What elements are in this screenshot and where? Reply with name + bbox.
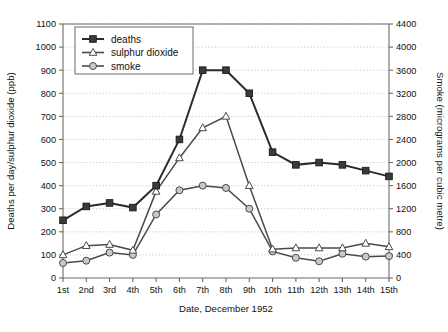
y-axis-tick-label: 1100: [36, 19, 56, 29]
data-point: [245, 182, 253, 189]
data-point: [130, 204, 137, 211]
data-point: [292, 254, 299, 261]
line-chart: 0100200300400500600700800900100011000400…: [0, 0, 448, 332]
x-axis-tick-label: 15th: [380, 285, 398, 295]
y-axis-tick-label: 700: [41, 112, 56, 122]
x-axis-tick-label: 14th: [357, 285, 375, 295]
data-point: [362, 253, 369, 260]
y2-axis-tick-label: 0: [396, 273, 401, 283]
y-axis-tick-label: 900: [41, 66, 56, 76]
data-point: [339, 250, 346, 257]
data-point: [269, 149, 276, 156]
series-path: [63, 70, 389, 220]
x-axis-tick-label: 7th: [196, 285, 209, 295]
legend-label: sulphur dioxide: [111, 47, 179, 58]
data-point: [106, 249, 113, 256]
y-axis-tick-label: 0: [51, 273, 56, 283]
y2-axis-tick-label: 3200: [396, 89, 416, 99]
y2-axis-tick-label: 4400: [396, 19, 416, 29]
y2-axis-tick-label: 2800: [396, 112, 416, 122]
data-point: [60, 259, 67, 266]
y2-axis-tick-label: 400: [396, 250, 411, 260]
data-point: [362, 167, 369, 174]
data-point: [223, 67, 230, 74]
data-point: [83, 257, 90, 264]
data-point: [362, 239, 370, 246]
data-point: [106, 200, 113, 207]
data-point: [316, 159, 323, 166]
data-point: [153, 182, 160, 189]
y2-axis-tick-label: 3600: [396, 66, 416, 76]
x-axis-tick-label: 5th: [150, 285, 163, 295]
y2-axis-title: Smoke (micrograms per cubic metre): [435, 72, 446, 230]
chart-container: 0100200300400500600700800900100011000400…: [0, 0, 448, 332]
y-axis-tick-label: 600: [41, 135, 56, 145]
x-axis-tick-label: 10th: [264, 285, 282, 295]
y2-axis-tick-label: 4000: [396, 42, 416, 52]
data-point: [246, 205, 253, 212]
data-point: [199, 182, 206, 189]
y-axis-tick-label: 1000: [36, 42, 56, 52]
legend-marker: [90, 36, 97, 43]
y-axis-tick-label: 800: [41, 89, 56, 99]
y-axis-tick-label: 500: [41, 158, 56, 168]
x-axis-tick-label: 11th: [287, 285, 304, 295]
data-point: [199, 67, 206, 74]
data-point: [386, 173, 393, 180]
data-point: [223, 184, 230, 191]
data-point: [83, 203, 90, 210]
data-point: [222, 112, 230, 119]
y2-axis-tick-label: 1600: [396, 181, 416, 191]
y2-axis-tick-label: 2000: [396, 158, 416, 168]
y2-axis-tick-label: 800: [396, 227, 411, 237]
x-axis-tick-label: 6th: [173, 285, 186, 295]
data-point: [316, 258, 323, 265]
data-point: [153, 211, 160, 218]
y-axis-title: Deaths per day/sulphur dioxide (ppb): [5, 72, 16, 229]
y2-axis-tick-label: 1200: [396, 204, 416, 214]
y-axis-tick-label: 400: [41, 181, 56, 191]
top-cropped-text: [58, 0, 168, 7]
x-axis-tick-label: 3rd: [103, 285, 116, 295]
data-point: [246, 90, 253, 97]
data-point: [386, 253, 393, 260]
x-axis-tick-label: 2nd: [79, 285, 94, 295]
legend-label: smoke: [111, 61, 141, 72]
data-point: [176, 136, 183, 143]
y-axis-tick-label: 300: [41, 204, 56, 214]
x-axis-tick-label: 13th: [333, 285, 351, 295]
y-axis-tick-label: 200: [41, 227, 56, 237]
legend-marker: [90, 63, 97, 70]
data-point: [176, 187, 183, 194]
data-point: [339, 162, 346, 169]
series-deaths: [60, 67, 393, 224]
legend-label: deaths: [111, 34, 141, 45]
x-axis-tick-label: 8th: [220, 285, 233, 295]
data-point: [293, 162, 300, 169]
y-axis-tick-label: 100: [41, 250, 56, 260]
series-smoke: [60, 182, 393, 266]
x-axis-tick-label: 9th: [243, 285, 256, 295]
x-axis-tick-label: 4th: [126, 285, 139, 295]
x-axis-tick-label: 1st: [57, 285, 70, 295]
x-axis-title: Date, December 1952: [179, 303, 273, 314]
data-point: [60, 217, 67, 224]
data-point: [106, 240, 114, 247]
y2-axis-tick-label: 2400: [396, 135, 416, 145]
x-axis-tick-label: 12th: [310, 285, 328, 295]
